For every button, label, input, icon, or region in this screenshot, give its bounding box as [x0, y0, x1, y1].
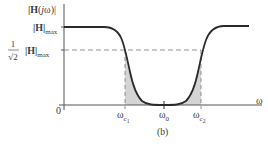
max-level-label: |H|max — [33, 22, 58, 36]
cutoff-level-label: 1 √2 |H|max — [8, 39, 50, 62]
w0-label: ω0 — [159, 109, 170, 123]
band-stop-filter-diagram: |H(jω)| |H|max 1 √2 |H|max 0 ωc1 ω0 ωc2 … — [0, 0, 268, 144]
y-axis-title: |H(jω)| — [28, 4, 56, 16]
x-axis-title: ω — [256, 95, 263, 106]
origin-label: 0 — [56, 105, 61, 116]
wc2-label: ωc2 — [193, 109, 206, 124]
magnitude-curve — [64, 26, 249, 105]
svg-text:|H|max: |H|max — [25, 45, 50, 59]
figure-caption: (b) — [157, 127, 168, 138]
svg-text:√2: √2 — [8, 52, 17, 62]
svg-text:1: 1 — [11, 39, 16, 49]
wc1-label: ωc1 — [117, 109, 130, 124]
